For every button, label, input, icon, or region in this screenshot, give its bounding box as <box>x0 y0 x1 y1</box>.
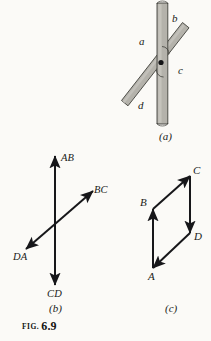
figure-caption-prefix: FIG. <box>22 322 39 331</box>
panel-b-caption: (b) <box>49 303 62 314</box>
figure-graphics <box>0 0 211 341</box>
panel-a-label-d: d <box>138 100 144 111</box>
panel-c-label-A: A <box>148 271 155 282</box>
panel-c-label-C: C <box>193 165 200 176</box>
panel-c-caption: (c) <box>165 303 177 314</box>
panel-a-label-c: c <box>178 65 183 76</box>
figure-caption-number: 6.9 <box>41 319 57 333</box>
panel-a-label-a: a <box>139 36 145 47</box>
figure-caption: FIG.6.9 <box>22 317 57 333</box>
vector-DA <box>26 224 55 249</box>
panel-b-label-CD: CD <box>47 289 62 300</box>
panel-a-label-b: b <box>172 13 178 24</box>
panel-c-graphic <box>153 176 190 268</box>
edge-D-to-A <box>153 233 190 268</box>
panel-b-label-AB: AB <box>61 153 74 164</box>
edge-B-to-C <box>153 176 190 209</box>
panel-c-label-B: B <box>140 197 147 208</box>
panel-a-caption: (a) <box>159 131 172 142</box>
panel-b-graphic <box>26 156 93 285</box>
panel-b-label-DA: DA <box>13 252 27 263</box>
panel-c-label-D: D <box>194 231 202 242</box>
figure-page: a b c d (a) AB BC CD DA (b) A B C D (c) … <box>0 0 211 341</box>
vector-BC <box>55 191 93 224</box>
panel-b-label-BC: BC <box>94 185 108 196</box>
panel-a-pivot-dot <box>158 60 163 65</box>
